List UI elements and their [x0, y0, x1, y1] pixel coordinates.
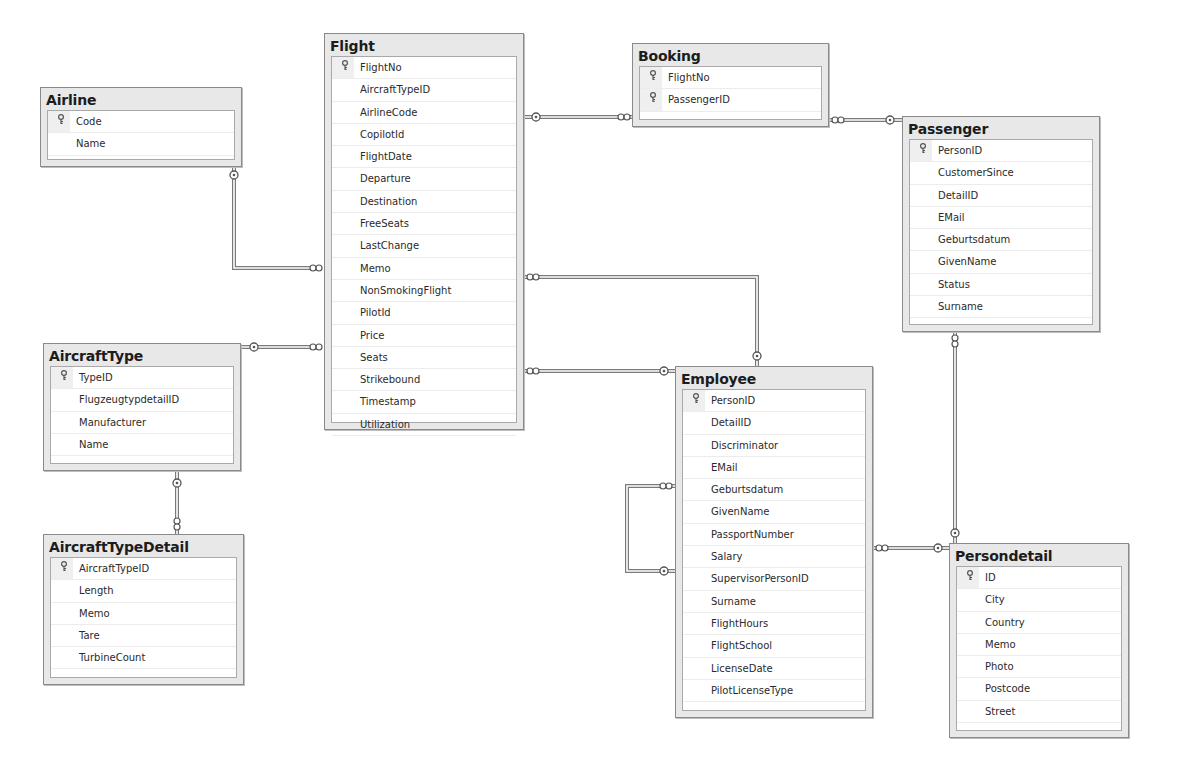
relationship-employee-employee-supervisor-[interactable] [627, 483, 675, 575]
column-copilotid[interactable]: CopilotId [332, 124, 516, 146]
column-country[interactable]: Country [957, 612, 1121, 634]
column-photo[interactable]: Photo [957, 656, 1121, 678]
column-name[interactable]: Name [51, 434, 233, 456]
column-aircrafttypeid[interactable]: AircraftTypeID [332, 79, 516, 101]
column-name[interactable]: Name [48, 133, 234, 155]
relationship-flight-employee-copilot-[interactable] [524, 367, 675, 375]
column-geburtsdatum[interactable]: Geburtsdatum [910, 229, 1092, 251]
column-memo[interactable]: Memo [957, 634, 1121, 656]
column-strikebound[interactable]: Strikebound [332, 369, 516, 391]
relationship-employee-persondetail[interactable] [873, 544, 949, 552]
one-end-key-icon [532, 113, 540, 121]
column-aircrafttypeid[interactable]: AircraftTypeID [51, 558, 236, 580]
column-name: Status [938, 279, 970, 290]
column-personid[interactable]: PersonID [910, 140, 1092, 162]
relationship-flight-employee-pilot-[interactable] [524, 274, 761, 366]
column-flighthours[interactable]: FlightHours [683, 613, 865, 635]
column-flightdate[interactable]: FlightDate [332, 146, 516, 168]
column-memo[interactable]: Memo [332, 258, 516, 280]
column-length[interactable]: Length [51, 580, 236, 602]
column-surname[interactable]: Surname [910, 296, 1092, 318]
column-name: AircraftTypeID [79, 563, 149, 574]
column-nonsmokingflight[interactable]: NonSmokingFlight [332, 280, 516, 302]
column-city[interactable]: City [957, 589, 1121, 611]
column-turbinecount[interactable]: TurbineCount [51, 647, 236, 669]
column-supervisorpersonid[interactable]: SupervisorPersonID [683, 568, 865, 590]
column-memo[interactable]: Memo [51, 603, 236, 625]
column-customersince[interactable]: CustomerSince [910, 162, 1092, 184]
column-tare[interactable]: Tare [51, 625, 236, 647]
column-name: Destination [360, 196, 417, 207]
column-postcode[interactable]: Postcode [957, 678, 1121, 700]
column-price[interactable]: Price [332, 325, 516, 347]
column-detailid[interactable]: DetailID [910, 185, 1092, 207]
column-pilotid[interactable]: PilotId [332, 302, 516, 324]
column-name: Departure [360, 173, 411, 184]
entity-persondetail[interactable]: Persondetail ID City Country Memo Photo … [949, 543, 1129, 738]
column-status[interactable]: Status [910, 274, 1092, 296]
relationship-passenger-persondetail[interactable] [951, 332, 959, 543]
column-street[interactable]: Street [957, 701, 1121, 723]
relationship-flight-booking[interactable] [524, 113, 632, 121]
column-timestamp[interactable]: Timestamp [332, 391, 516, 413]
column-name: AircraftTypeID [360, 84, 430, 95]
column-givenname[interactable]: GivenName [910, 251, 1092, 273]
entity-employee[interactable]: Employee PersonID DetailID Discriminator… [675, 366, 873, 718]
entity-title: Airline [41, 88, 241, 110]
one-end-key-icon [934, 544, 942, 552]
column-airlinecode[interactable]: AirlineCode [332, 102, 516, 124]
column-name: ID [985, 572, 996, 583]
column-name: Country [985, 617, 1025, 628]
relationship-airline-flight[interactable] [230, 167, 322, 271]
column-flightno[interactable]: FlightNo [640, 67, 821, 89]
column-utilization[interactable]: Utilization [332, 414, 516, 436]
column-name: FlugzeugtypdetailID [79, 394, 179, 405]
column-passengerid[interactable]: PassengerID [640, 89, 821, 111]
column-flightno[interactable]: FlightNo [332, 57, 516, 79]
entity-title: Passenger [903, 117, 1099, 139]
entity-title: Persondetail [950, 544, 1128, 566]
column-discriminator[interactable]: Discriminator [683, 435, 865, 457]
column-lastchange[interactable]: LastChange [332, 235, 516, 257]
column-freeseats[interactable]: FreeSeats [332, 213, 516, 235]
column-name: Postcode [985, 683, 1030, 694]
column-name: LicenseDate [711, 663, 773, 674]
entity-passenger[interactable]: Passenger PersonID CustomerSince DetailI… [902, 116, 1100, 332]
relationship-aircrafttype-flight[interactable] [241, 343, 322, 351]
key-icon [963, 567, 977, 588]
relationship-booking-passenger[interactable] [829, 116, 902, 124]
entity-flight[interactable]: Flight FlightNo AircraftTypeID AirlineCo… [324, 33, 524, 430]
column-salary[interactable]: Salary [683, 546, 865, 568]
column-destination[interactable]: Destination [332, 191, 516, 213]
column-detailid[interactable]: DetailID [683, 412, 865, 434]
column-name: Memo [360, 263, 391, 274]
column-flightschool[interactable]: FlightSchool [683, 635, 865, 657]
column-id[interactable]: ID [957, 567, 1121, 589]
entity-airline[interactable]: Airline Code Name [40, 87, 242, 167]
column-flugzeugtypdetailid[interactable]: FlugzeugtypdetailID [51, 389, 233, 411]
column-pilotlicensetype[interactable]: PilotLicenseType [683, 680, 865, 702]
column-licensedate[interactable]: LicenseDate [683, 658, 865, 680]
column-passportnumber[interactable]: PassportNumber [683, 524, 865, 546]
column-name: Strikebound [360, 374, 420, 385]
column-seats[interactable]: Seats [332, 347, 516, 369]
column-list: ID City Country Memo Photo Postcode Stre… [956, 566, 1122, 731]
column-manufacturer[interactable]: Manufacturer [51, 412, 233, 434]
column-givenname[interactable]: GivenName [683, 501, 865, 523]
entity-aircrafttypedetail[interactable]: AircraftTypeDetail AircraftTypeID Length… [43, 534, 244, 685]
relationship-aircrafttype-aircrafttypedetail[interactable] [173, 471, 181, 534]
column-typeid[interactable]: TypeID [51, 367, 233, 389]
column-departure[interactable]: Departure [332, 168, 516, 190]
column-name: TypeID [79, 372, 113, 383]
many-end-infinity-icon [832, 117, 844, 123]
column-personid[interactable]: PersonID [683, 390, 865, 412]
entity-booking[interactable]: Booking FlightNo PassengerID [632, 43, 829, 127]
column-surname[interactable]: Surname [683, 591, 865, 613]
entity-title: Booking [633, 44, 828, 66]
column-geburtsdatum[interactable]: Geburtsdatum [683, 479, 865, 501]
column-email[interactable]: EMail [910, 207, 1092, 229]
column-email[interactable]: EMail [683, 457, 865, 479]
entity-aircrafttype[interactable]: AircraftType TypeID FlugzeugtypdetailID … [43, 343, 241, 471]
one-end-key-icon [886, 116, 894, 124]
column-code[interactable]: Code [48, 111, 234, 133]
